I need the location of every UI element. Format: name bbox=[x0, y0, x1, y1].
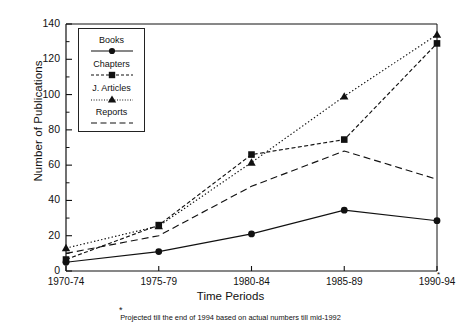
legend-label: J. Articles bbox=[79, 83, 144, 94]
legend-box: Books Chapters J. Articles bbox=[78, 28, 145, 132]
legend-symbol-chapters bbox=[79, 70, 144, 80]
legend-item-reports: Reports bbox=[79, 107, 144, 128]
legend-label: Books bbox=[79, 35, 144, 46]
legend-item-books: Books bbox=[79, 35, 144, 56]
legend-item-j-articles: J. Articles bbox=[79, 83, 144, 104]
x-tick-label: 1985-89 bbox=[309, 276, 379, 287]
legend-item-chapters: Chapters bbox=[79, 59, 144, 80]
x-axis-title: Time Periods bbox=[0, 290, 461, 302]
x-tick-label: 1970-74 bbox=[31, 276, 101, 287]
legend-symbol-books bbox=[79, 46, 144, 56]
legend-label: Chapters bbox=[79, 59, 144, 70]
x-tick-label: 1975-79 bbox=[124, 276, 194, 287]
chart-figure: Number of Publications 140 120 100 80 60… bbox=[0, 0, 461, 331]
footnote-text: Projected till the end of 1994 based on … bbox=[0, 313, 461, 322]
legend-label: Reports bbox=[79, 107, 144, 118]
legend-symbol-reports bbox=[79, 118, 144, 128]
x-tick-label: 1980-84 bbox=[217, 276, 287, 287]
x-tick-label: 1990-94 bbox=[402, 276, 461, 287]
axis-asterisk-marker: * bbox=[437, 270, 440, 279]
legend-symbol-j-articles bbox=[79, 94, 144, 104]
